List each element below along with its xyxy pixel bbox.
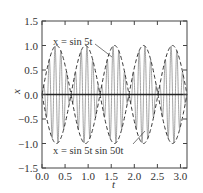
y-axis-label: x [10, 89, 22, 95]
annotation-modulated-leader [133, 131, 145, 144]
x-tick-label: 2.5 [151, 170, 165, 182]
y-tick-label: 1.0 [24, 40, 38, 52]
y-tick-label: −0.5 [18, 113, 38, 125]
annotation-envelope: x = sin 5t [53, 36, 93, 47]
annotation-envelope-leader [95, 44, 112, 57]
x-tick-label: 1.0 [81, 170, 95, 182]
y-tick-label: 0.0 [24, 89, 38, 101]
y-tick-label: −1.0 [18, 138, 38, 150]
x-tick-label: 2.0 [127, 170, 141, 182]
y-tick-label: 0.5 [24, 64, 38, 76]
x-tick-label: 3.0 [174, 170, 188, 182]
chart: 0.00.51.01.52.02.53.0 1.51.00.50.0−0.5−1… [0, 0, 203, 193]
x-tick-label: 0.5 [58, 170, 72, 182]
y-tick-label: −1.5 [18, 162, 38, 174]
annotation-modulated: x = sin 5t sin 50t [53, 145, 123, 156]
y-tick-label: 1.5 [24, 15, 38, 27]
plot-area [42, 46, 187, 144]
